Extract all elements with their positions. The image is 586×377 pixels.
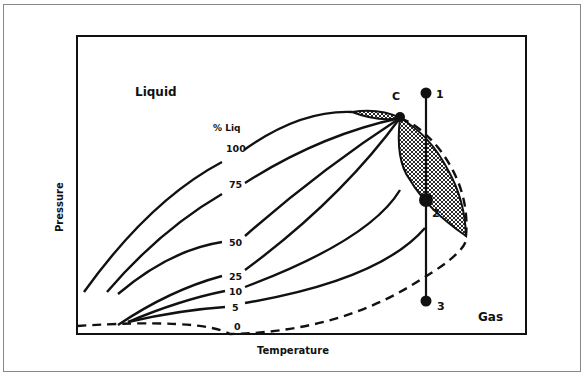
quality-label-5: 5 xyxy=(232,302,239,313)
retrograde-region-upper xyxy=(352,111,400,119)
point-1-marker xyxy=(421,88,432,99)
quality-label-0: 0 xyxy=(234,321,241,332)
quality-label-50: 50 xyxy=(229,237,243,248)
quality-label-100: 100 xyxy=(226,143,246,154)
quality-label-10: 10 xyxy=(229,286,243,297)
point-1-label: 1 xyxy=(436,88,444,101)
point-2-label: 2 xyxy=(432,207,440,220)
point-3-marker xyxy=(421,296,432,307)
point-3-label: 3 xyxy=(437,300,445,313)
quality-lines xyxy=(84,112,425,325)
critical-point-marker xyxy=(395,112,405,122)
region-label-liquid: Liquid xyxy=(135,85,177,99)
point-2-marker xyxy=(419,193,433,207)
region-label-gas: Gas xyxy=(478,310,503,324)
quality-label-25: 25 xyxy=(229,271,242,282)
y-axis-label: Pressure xyxy=(54,182,65,232)
quality-label-75: 75 xyxy=(229,179,242,190)
phase-diagram: Liquid Gas % Liq 100 75 50 25 10 5 0 C 1… xyxy=(0,0,586,377)
quality-header: % Liq xyxy=(213,123,240,133)
critical-point-label: C xyxy=(392,90,400,103)
x-axis-label: Temperature xyxy=(257,345,329,356)
